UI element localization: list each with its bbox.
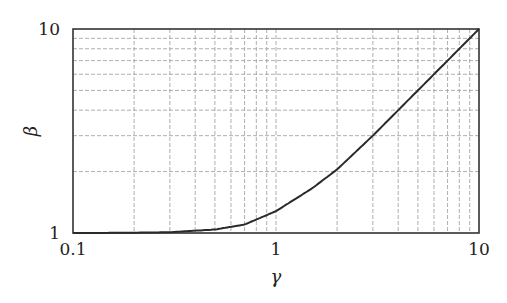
y-tick-label: 1 <box>49 223 60 243</box>
y-tick-label: 10 <box>38 19 60 39</box>
y-axis-label: β <box>20 126 41 137</box>
grid-lines <box>73 29 479 233</box>
x-tick-label: 1 <box>271 239 282 259</box>
chart: 0.1110 110 γ β <box>0 0 507 303</box>
x-tick-labels: 0.1110 <box>59 239 489 259</box>
x-tick-label: 0.1 <box>59 239 86 259</box>
x-tick-label: 10 <box>468 239 490 259</box>
y-tick-labels: 110 <box>38 19 60 243</box>
x-axis-label: γ <box>271 266 282 287</box>
